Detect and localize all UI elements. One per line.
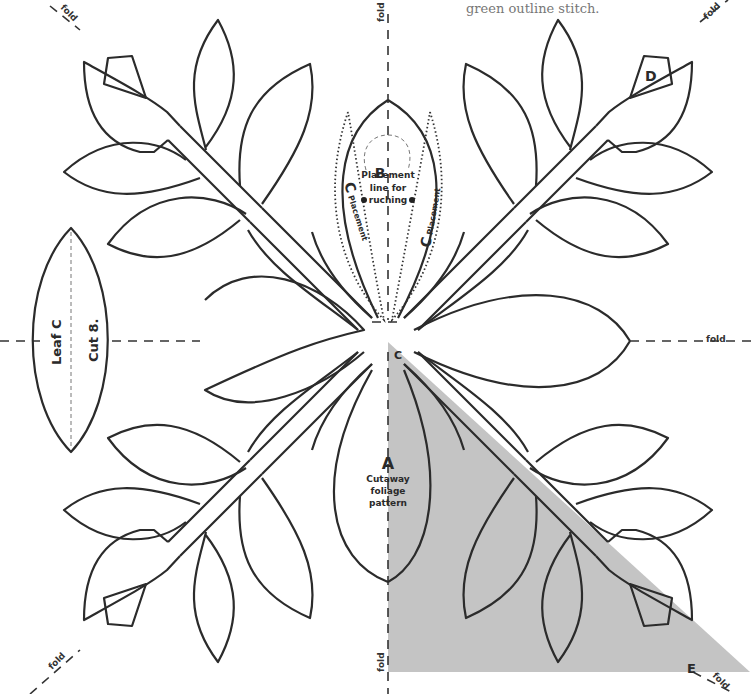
foliage-branch-bottom-left bbox=[64, 352, 372, 662]
foliage-branch-top-right bbox=[404, 20, 712, 330]
placement-line-3: ruching bbox=[369, 195, 408, 205]
a-text-line-2: foliage bbox=[371, 486, 406, 496]
svg-text:C: C bbox=[417, 236, 435, 249]
label-d: D bbox=[645, 68, 657, 84]
ruching-point-right bbox=[409, 197, 415, 203]
fold-label-top: fold bbox=[376, 2, 386, 22]
placement-line-1: Placement bbox=[361, 170, 415, 180]
fold-label-bottom-left: fold bbox=[46, 650, 67, 671]
ruching-point-left bbox=[361, 197, 367, 203]
svg-text:C: C bbox=[341, 180, 359, 195]
leaf-c-name: Leaf C bbox=[49, 319, 64, 365]
c-placement-label-right: C Placement bbox=[417, 186, 443, 248]
cutaway-shade-triangle bbox=[388, 342, 750, 672]
fold-label-bottom-right: fold bbox=[711, 670, 732, 691]
leaf-left-center bbox=[205, 277, 364, 403]
leaf-c-cut: Cut 8. bbox=[86, 318, 101, 362]
label-c-center: C bbox=[394, 349, 402, 362]
caption-text: green outline stitch. bbox=[466, 1, 599, 16]
label-a: A bbox=[382, 454, 395, 473]
a-text-line-1: Cutaway bbox=[366, 474, 409, 484]
piece-b-outline bbox=[364, 135, 410, 170]
placement-line-2: line for bbox=[370, 183, 407, 193]
a-text-line-3: pattern bbox=[369, 498, 407, 508]
fold-label-top-right: fold bbox=[701, 0, 722, 21]
fold-label-bottom: fold bbox=[376, 652, 386, 672]
foliage-branch-top-left bbox=[64, 20, 372, 330]
fold-label-right: fold bbox=[706, 334, 726, 344]
quilt-pattern-diagram: fold fold fold fold fold fold fold green… bbox=[0, 0, 751, 694]
fold-label-top-left: fold bbox=[59, 2, 80, 23]
label-e: E bbox=[687, 661, 696, 676]
